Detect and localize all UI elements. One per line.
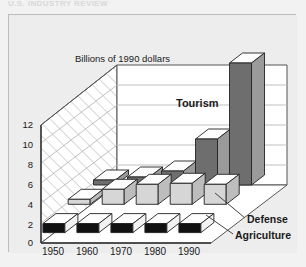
bar-tourism-1990 — [230, 53, 265, 185]
page-header-fragment: U.S. INDUSTRY REVIEW — [8, 0, 168, 7]
bar-group-agriculture — [43, 214, 214, 233]
y-tick-4: 4 — [15, 199, 33, 210]
y-tick-0: 0 — [15, 237, 33, 248]
series-label-defense: Defense — [247, 213, 288, 225]
x-tick-1990: 1990 — [174, 246, 204, 257]
axis-title: Billions of 1990 dollars — [75, 53, 170, 64]
figure-frame: Billions of 1990 dollars 12 10 8 6 4 2 0… — [8, 14, 296, 252]
y-tick-10: 10 — [15, 139, 33, 150]
y-tick-8: 8 — [15, 159, 33, 170]
x-tick-1980: 1980 — [140, 246, 170, 257]
series-label-agriculture: Agriculture — [235, 229, 291, 241]
y-tick-2: 2 — [15, 219, 33, 230]
y-tick-12: 12 — [15, 119, 33, 130]
x-tick-1950: 1950 — [38, 246, 68, 257]
series-label-tourism: Tourism — [176, 97, 219, 109]
y-tick-6: 6 — [15, 179, 33, 190]
x-tick-1970: 1970 — [106, 246, 136, 257]
x-tick-1960: 1960 — [72, 246, 102, 257]
